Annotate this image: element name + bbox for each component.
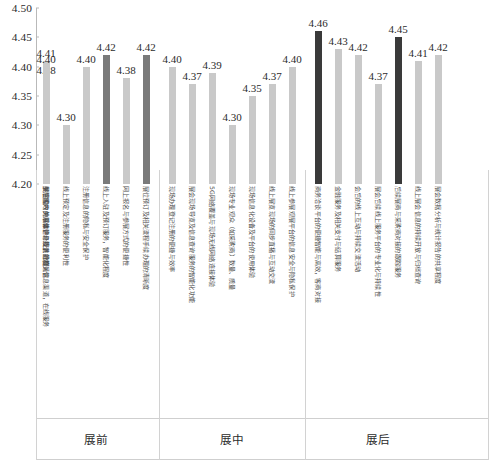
group-label: 展前 [84,431,108,447]
category-label-slot: 展会现场导览及信息查询服务的智能化功能 [182,184,202,424]
category-label: 5G网络覆盖与现场无线网络连接体验 [209,186,215,287]
bar-slot: 4.42 [96,8,116,184]
category-label: 后续展商与采购商对接的跟踪服务 [395,186,401,278]
bar[interactable] [229,125,236,184]
bar-value-label: 4.30 [56,111,75,123]
bar-slot: 4.37 [368,8,388,184]
bar[interactable] [143,55,150,184]
category-label: 展会现场导览及信息查询服务的智能化功能 [189,186,195,303]
category-label-slot: 线上预定及注册服务的便利性 [56,184,76,424]
bar[interactable] [189,84,196,184]
category-label-slot: 商务洽谈平台的便捷智能与高效，客商对接 [308,184,328,424]
y-axis-tick-label: 4.35 [12,90,36,102]
bar-slot: 4.35 [242,8,262,184]
bar-value-label: 4.42 [96,41,115,53]
bar[interactable] [269,84,276,184]
bar-value-label: 4.37 [262,70,281,82]
group-cell-3: 展后 [308,418,448,460]
bar[interactable] [209,73,216,184]
group-label: 展中 [220,431,244,447]
bar[interactable] [315,31,322,184]
category-label: 线上参展观展平台的信息安全与隐私保护 [289,186,295,297]
category-label: 现场信息化设备及平台的使用体验 [249,186,255,278]
category-label-slot: 现场专业观众（如采购商）数量、质量 [222,184,242,424]
group-cell-2: 展中 [162,418,302,460]
bar[interactable] [103,55,110,184]
bar-value-label: 4.41 [408,47,427,59]
bar-slot: 4.42 [348,8,368,184]
category-label: 现场专业观众（如采购商）数量、质量 [229,186,235,291]
bar-value-label: 4.45 [388,23,407,35]
bar-slot: 4.39 [202,8,222,184]
plot-area: 4.504.454.404.354.304.254.20 4.414.304.4… [36,8,488,184]
bar-value-label: 4.43 [328,35,347,47]
category-label: 商务洽谈平台的便捷智能与高效，客商对接 [315,186,321,303]
bar-slot: 4.43 [328,8,348,184]
category-label-slot: 展会数据分析与统计报告的共享程度 [428,184,448,424]
bar[interactable] [335,49,342,184]
category-label-slot: 现场信息化设备及平台的使用体验 [242,184,262,424]
bar[interactable] [375,84,382,184]
bar-value-label: 4.38 [116,64,135,76]
bar-slot: 4.37 [182,8,202,184]
category-label-group: 关注国内外展会信息提供的相关信息渠道，在线服务线上预定及注册服务的便利性注册信息… [36,184,488,424]
bar-value-label: 4.37 [182,70,201,82]
bar-value-label: 4.42 [348,41,367,53]
category-label-slot: 注册信息的隐私与安全保护 [76,184,96,424]
bar-slot: 4.30 [222,8,242,184]
bar-series: 4.414.304.404.424.384.424.404.374.394.30… [36,8,488,184]
bar-slot: 4.42 [136,8,156,184]
bar[interactable] [355,55,362,184]
category-label-slot: 网上报名与参展方式的便捷性 [116,184,136,424]
category-label-slot: 线上入驻及预订服务，智能化程度 [96,184,116,424]
group-separator [305,170,306,460]
category-label: 网上报名与参展方式的便捷性 [123,186,129,266]
group-separator [159,170,160,460]
y-axis-tick-label: 4.20 [12,178,36,190]
bar[interactable] [63,125,70,184]
bar-slot: 4.37 [262,8,282,184]
y-axis-tick-label: 4.50 [12,2,36,14]
category-label: 线上入驻及预订服务，智能化程度 [103,186,109,278]
category-label-slot: 展会后续线上服务平台的专业化与持续性 [368,184,388,424]
bar-slot: 4.30 [56,8,76,184]
bar-slot: 4.45 [388,8,408,184]
bar-value-label: 4.37 [368,70,387,82]
bar-slot: 4.40 [76,8,96,184]
category-label-slot: 金融服务及相关支付与结算服务 [328,184,348,424]
bar[interactable] [249,96,256,184]
bar[interactable] [435,55,442,184]
category-label: 线上展会信息的持续开放与归档查询 [415,186,421,284]
bar-value-label: 4.35 [242,82,261,94]
category-label-slot: 展位预订及相关流程手续办理的清晰度 [136,184,156,424]
category-label-slot: 5G网络覆盖与现场无线网络连接体验 [202,184,222,424]
bar[interactable] [43,67,50,184]
category-label: 线上展览现场的同步直播与互动交流 [269,186,275,284]
bar-value-label: 4.40 [162,53,181,65]
category-label: 展会后续线上服务平台的专业化与持续性 [375,186,381,297]
bar[interactable] [169,67,176,184]
bar-slot: 4.40 [36,8,56,184]
bar-slot: 4.42 [428,8,448,184]
band-right-rule [488,170,489,460]
bar-slot: 4.38 [116,8,136,184]
bar[interactable] [83,67,90,184]
bar[interactable] [415,61,422,184]
y-axis-tick-label: 4.25 [12,149,36,161]
bar[interactable] [395,37,402,184]
bar-value-label: 4.40 [282,53,301,65]
bar[interactable] [289,67,296,184]
category-label-slot: 后续展商与采购商对接的跟踪服务 [388,184,408,424]
bar-slot: 4.46 [308,8,328,184]
group-cell-1: 展前 [36,418,156,460]
bar-value-label: 4.40 [36,53,55,65]
bar[interactable] [123,78,130,184]
y-axis-tick-label: 4.40 [12,61,36,73]
group-band: 展前展中展后 [36,418,488,460]
band-left-rule [36,170,37,460]
bar-value-label: 4.42 [136,41,155,53]
bar-slot: 4.40 [162,8,182,184]
category-label: 金融服务及相关支付与结算服务 [335,186,341,272]
category-label: 注册信息的隐私与安全保护 [83,186,89,260]
category-label: 展位预订及相关流程手续办理的清晰度 [143,186,149,291]
